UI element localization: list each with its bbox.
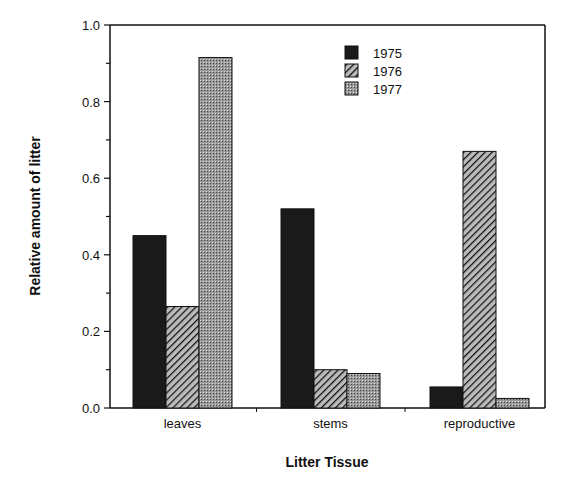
x-tick-label: leaves	[164, 416, 202, 431]
bar-reproductive-1976	[463, 151, 496, 408]
y-tick-label: 0.8	[82, 95, 100, 110]
x-axis-label: Litter Tissue	[286, 454, 369, 470]
legend-swatch-1977	[345, 82, 358, 95]
bar-leaves-1976	[166, 307, 199, 408]
legend-swatch-1975	[345, 46, 358, 59]
y-tick-label: 0.4	[82, 248, 100, 263]
bar-chart: 0.00.20.40.60.81.0Relative amount of lit…	[0, 0, 564, 479]
bar-leaves-1975	[133, 236, 166, 408]
bar-stems-1977	[347, 374, 380, 408]
y-tick-label: 1.0	[82, 18, 100, 33]
legend: 197519761977	[345, 46, 402, 97]
y-tick-label: 0.0	[82, 401, 100, 416]
legend-swatch-1976	[345, 64, 358, 77]
bar-stems-1976	[314, 370, 347, 408]
bar-reproductive-1977	[496, 398, 529, 408]
bars: leavesstemsreproductive	[133, 58, 529, 431]
bar-leaves-1977	[199, 58, 232, 408]
legend-label: 1977	[373, 82, 402, 97]
y-axis-label: Relative amount of litter	[27, 136, 43, 296]
legend-label: 1976	[373, 64, 402, 79]
x-tick-label: stems	[313, 416, 348, 431]
bar-reproductive-1975	[430, 387, 463, 408]
x-tick-label: reproductive	[444, 416, 516, 431]
y-tick-label: 0.2	[82, 324, 100, 339]
y-tick-label: 0.6	[82, 171, 100, 186]
bar-stems-1975	[281, 209, 314, 408]
legend-label: 1975	[373, 46, 402, 61]
